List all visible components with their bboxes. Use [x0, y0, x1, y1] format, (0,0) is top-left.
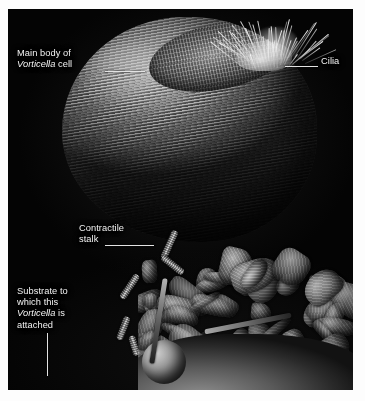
micrograph-figure: Main body ofVorticella cell Cilia Contra…: [0, 0, 365, 401]
leader-line-cilia: [285, 66, 318, 67]
label-contractile-stalk: Contractilestalk: [79, 223, 124, 245]
label-substrate-line4: attached: [17, 320, 53, 330]
label-substrate-line3-rest: is: [55, 308, 64, 318]
label-substrate-line1: Substrate to: [17, 286, 68, 296]
vorticella-bell-body: [62, 17, 317, 249]
label-cilia-text: Cilia: [321, 56, 339, 66]
label-substrate-species: Vorticella: [17, 308, 55, 318]
label-main-body-line2-rest: cell: [55, 59, 72, 69]
label-cilia: Cilia: [321, 56, 339, 67]
label-substrate-line2: which this: [17, 297, 58, 307]
micrograph-plate: Main body ofVorticella cell Cilia Contra…: [8, 9, 353, 390]
leader-line-main-body: [105, 71, 145, 72]
substrate-debris-surface: [138, 235, 353, 390]
cilia-tuft: [222, 13, 332, 71]
label-main-body-line1: Main body of: [17, 48, 71, 58]
substrate-debris: [141, 260, 158, 284]
label-main-body: Main body ofVorticella cell: [17, 48, 72, 70]
label-stalk-line1: Contractile: [79, 223, 124, 233]
label-substrate: Substrate towhich thisVorticella isattac…: [17, 286, 68, 331]
leader-line-substrate: [47, 333, 48, 376]
label-main-body-species: Vorticella: [17, 59, 55, 69]
label-stalk-line2: stalk: [79, 234, 98, 244]
